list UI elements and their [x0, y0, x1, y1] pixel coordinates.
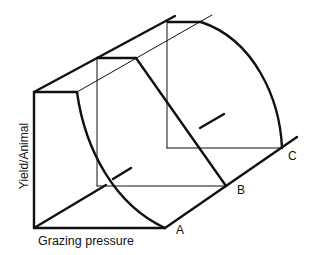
diagonal-dash-1 [113, 168, 131, 179]
point-label-a: A [176, 224, 184, 236]
x-axis-label: Grazing pressure [38, 235, 134, 247]
point-label-c: C [288, 150, 297, 162]
point-label-b: B [237, 184, 245, 196]
diagonal-origin [34, 185, 106, 228]
diagonal-dash-2 [200, 114, 224, 128]
surface-outline [34, 16, 297, 228]
top-back-edge [34, 16, 175, 92]
y-axis-label: Yield/Animal [18, 116, 30, 196]
baseline-abc [165, 137, 297, 228]
curve-a [77, 92, 165, 228]
front-face-axes [34, 92, 165, 228]
yield-grazing-diagram [0, 0, 313, 255]
construction-lines [77, 15, 282, 186]
curve-c [201, 22, 282, 148]
